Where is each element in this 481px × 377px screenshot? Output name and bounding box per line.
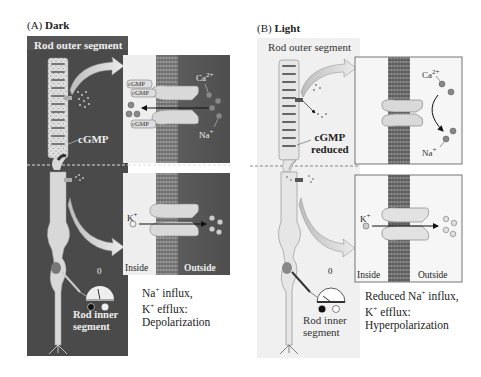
panel-a-outer-segment-label: Rod outer segment [34,39,122,51]
panel-a-prefix: (A) [27,19,42,31]
panel-a-bottom-box [123,173,230,275]
panel-b-bottom-box [355,175,462,282]
panel-a-caption: Na+ influx, K+ efflux: Depolarization [142,284,210,329]
panel-b-top-box [355,57,462,164]
panel-a-inner-segment-label: Rod inner segment [73,309,118,333]
cgmp-tag-3: cGMP [132,120,149,127]
panel-a-title: Dark [45,19,69,31]
panel-a-top-box [123,55,230,163]
caption-line: Hyperpolarization [365,319,459,332]
panel-b-title: Light [274,22,300,34]
panel-b-outside-label: Outside [418,270,448,280]
panel-a-na-label: Na+ [199,128,213,140]
panel-a-ca-label: Ca2+ [196,71,213,83]
panel-b-caption: Reduced Na+ influx, K+ efflux: Hyperpola… [365,287,459,332]
panel-b-prefix: (B) [257,22,272,34]
caption-line: Na+ influx, [142,284,210,300]
panel-a-outside-label: Outside [184,263,216,273]
panel-a-meter-zero: 0 [97,266,102,276]
panel-a-inside-label: Inside [125,263,148,273]
caption-line: Reduced Na+ influx, [365,287,459,303]
panel-b-k-label: K+ [360,212,370,224]
panel-b-label: (B) Light [257,22,300,34]
caption-line: Depolarization [142,316,210,329]
panel-b-cgmp-reduced-label: cGMP reduced [311,131,349,155]
panel-a-label: (A) Dark [27,19,69,31]
caption-line: K+ efflux: [142,300,210,316]
panel-b-ca-label: Ca2+ [422,68,439,80]
panel-b-outer-segment-label: Rod outer segment [268,41,351,53]
panel-a-cgmp-label: cGMP [78,133,109,145]
panel-b-na-label: Na+ [422,146,436,158]
cgmp-tag-2: cGMP [132,89,149,96]
panel-b-meter-zero: 0 [328,266,333,276]
panel-b-inner-segment-label: Rod inner segment [303,314,347,338]
cgmp-tag-1: cGMP [128,80,145,87]
caption-line: K+ efflux: [365,303,459,319]
panel-a-k-label: K+ [127,211,137,223]
panel-b-inside-label: Inside [357,270,380,280]
